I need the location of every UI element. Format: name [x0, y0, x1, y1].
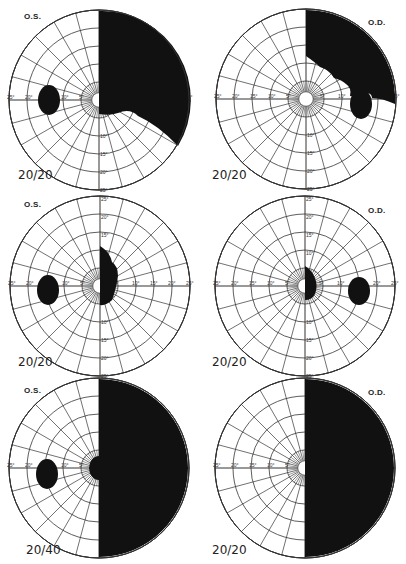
axis-tick-label: 10°	[100, 133, 108, 139]
axis-tick-label: 20°	[306, 355, 314, 361]
axis-tick-label: 20°	[26, 280, 34, 286]
axis-tick-label: 20°	[231, 462, 239, 468]
axis-tick-label: 10°	[338, 93, 346, 99]
axis-tick-label: 5°	[80, 280, 85, 286]
axis-tick-label: 10°	[306, 250, 314, 256]
axis-tick-label: 20°	[25, 462, 33, 468]
axis-tick-label: 20°	[232, 93, 240, 99]
eye-label-row1-right: O.D.	[368, 18, 386, 27]
axis-tick-label: 20°	[373, 280, 381, 286]
acuity-row3-left: 20/40	[26, 543, 61, 557]
axis-tick-label: 15°	[249, 280, 257, 286]
axis-tick-label: 15°	[249, 462, 257, 468]
axis-tick-label: 15°	[101, 232, 109, 238]
axis-tick-label: 25°	[213, 280, 221, 286]
axis-tick-label: 15°	[100, 151, 108, 157]
axis-tick-label: 10°	[306, 319, 314, 325]
axis-tick-label: 20°	[101, 214, 109, 220]
perimetry-chart-row3-right: 25°20°15°10°5°	[213, 378, 395, 558]
eye-label-row3-right: O.D.	[368, 388, 386, 397]
axis-tick-label: 10°	[267, 462, 275, 468]
axis-tick-label: 20°	[231, 280, 239, 286]
axis-tick-label: 5°	[285, 280, 290, 286]
perimetry-chart-row1-left: 25°20°15°10°5°10°15°20°25°5°10°15°20°25°	[7, 10, 193, 193]
axis-tick-label: 20°	[168, 280, 176, 286]
visual-field-defect	[305, 379, 394, 557]
axis-tick-label: 25°	[101, 196, 109, 202]
perimetry-chart-row2-right: 25°20°15°10°5°10°15°20°25°5°10°15°20°25°…	[213, 196, 399, 379]
axis-tick-label: 25°	[8, 280, 16, 286]
eye-label-row1-left: O.S.	[24, 12, 41, 21]
axis-tick-label: 20°	[307, 168, 315, 174]
axis-tick-label: 10°	[307, 132, 315, 138]
blind-spot	[36, 459, 58, 489]
visual-field-defect	[89, 379, 188, 557]
axis-tick-label: 20°	[101, 355, 109, 361]
axis-tick-label: 15°	[101, 337, 109, 343]
axis-tick-label: 10°	[132, 280, 140, 286]
axis-tick-label: 15°	[306, 337, 314, 343]
axis-tick-label: 25°	[7, 94, 15, 100]
axis-tick-label: 5°	[79, 462, 84, 468]
axis-tick-label: 10°	[61, 462, 69, 468]
axis-tick-label: 15°	[150, 280, 158, 286]
acuity-row3-right: 20/20	[212, 543, 247, 557]
axis-tick-label: 20°	[306, 214, 314, 220]
axis-tick-label: 20°	[100, 169, 108, 175]
acuity-row2-left: 20/20	[18, 355, 53, 369]
blind-spot	[38, 85, 60, 115]
axis-tick-label: 10°	[101, 319, 109, 325]
axis-tick-label: 5°	[285, 462, 290, 468]
blind-spot	[348, 277, 370, 305]
axis-tick-label: 25°	[7, 462, 15, 468]
eye-label-row2-left: O.S.	[24, 200, 41, 209]
axis-tick-label: 5°	[320, 93, 325, 99]
axis-tick-label: 10°	[62, 280, 70, 286]
axis-tick-label: 25°	[213, 462, 221, 468]
perimetry-figure: 25°20°15°10°5°10°15°20°25°5°10°15°20°25°…	[0, 0, 406, 564]
perimetry-chart-row3-left: 25°20°15°10°5°	[7, 378, 189, 558]
axis-tick-label: 25°	[214, 93, 222, 99]
axis-tick-label: 5°	[286, 93, 291, 99]
axis-tick-label: 5°	[79, 94, 84, 100]
perimetry-chart-row2-left: 25°20°15°10°5°10°15°20°25°5°10°15°20°25°…	[8, 196, 194, 379]
eye-label-row2-right: O.D.	[368, 206, 386, 215]
axis-tick-label: 10°	[267, 280, 275, 286]
axis-tick-label: 10°	[61, 94, 69, 100]
axis-tick-label: 10°	[337, 280, 345, 286]
axis-tick-label: 25°	[306, 196, 314, 202]
acuity-row2-right: 20/20	[212, 355, 247, 369]
perimetry-chart-row1-right: 25°20°15°10°5°10°15°20°25°5°10°15°20°25°	[214, 9, 400, 192]
eye-label-row3-left: O.S.	[24, 386, 41, 395]
axis-tick-label: 5°	[319, 280, 324, 286]
blind-spot	[37, 275, 59, 305]
axis-tick-label: 15°	[307, 150, 315, 156]
axis-tick-label: 20°	[25, 94, 33, 100]
axis-tick-label: 15°	[306, 232, 314, 238]
axis-tick-label: 15°	[250, 93, 258, 99]
acuity-row1-right: 20/20	[212, 168, 247, 182]
axis-tick-label: 10°	[268, 93, 276, 99]
acuity-row1-left: 20/20	[18, 168, 53, 182]
